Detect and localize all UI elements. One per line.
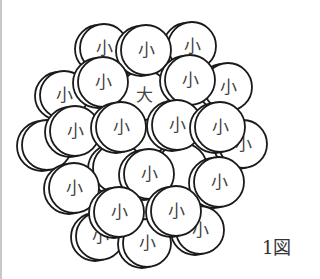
disk-label: 小: [95, 72, 112, 92]
disk-label: 小: [220, 77, 237, 97]
disk-front-upper-left: 小: [73, 57, 128, 108]
disk-label: 小: [111, 202, 128, 222]
disk-front-mid-right: 小: [190, 102, 245, 153]
disk-label: 小: [139, 233, 156, 253]
disk-label: 小: [113, 117, 130, 137]
disk-label: 小: [212, 117, 229, 137]
disk-label: 小: [182, 70, 199, 90]
disk-front-bottom-right: 小: [146, 186, 201, 237]
disk-label: 小: [67, 121, 84, 141]
disk-label: 小: [138, 40, 155, 60]
disk-label: 小: [184, 36, 201, 56]
disk-label: 大: [136, 85, 153, 105]
disk-front-mid-center-left: 小: [91, 102, 146, 153]
disk-front-upper-right: 小: [160, 55, 215, 106]
disk-label: 小: [96, 38, 113, 58]
disk-label: 小: [56, 85, 73, 105]
disk-label: 小: [66, 178, 83, 198]
disk-front-bottom-left: 小: [89, 187, 144, 238]
disk-label: 小: [141, 164, 158, 184]
figure-caption: 1図: [262, 233, 291, 259]
disk-label: 小: [168, 201, 185, 221]
disk-label: 小: [211, 172, 228, 192]
disk-label: 小: [169, 115, 186, 135]
